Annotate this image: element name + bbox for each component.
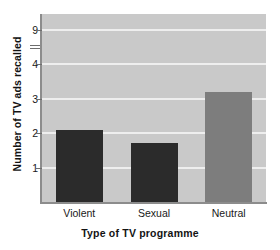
x-axis-tick-label: Neutral <box>212 207 246 219</box>
x-axis-tick-labels: ViolentSexualNeutral <box>42 207 266 223</box>
y-axis-tick-mark <box>36 99 42 100</box>
y-axis-tick-labels: 12349 <box>22 0 38 250</box>
gridline <box>42 29 266 31</box>
y-axis-tick-mark <box>36 133 42 134</box>
x-axis-tick-label: Violent <box>63 207 95 219</box>
y-axis-tick-mark <box>36 30 42 31</box>
bar <box>56 130 103 202</box>
x-axis-tick-label: Sexual <box>138 207 170 219</box>
y-axis-tick-mark <box>36 168 42 169</box>
y-axis-tick-mark <box>36 64 42 65</box>
bar <box>131 143 178 202</box>
gridline <box>42 63 266 65</box>
bar-chart-figure: Number of TV ads recalled 12349 ViolentS… <box>0 0 280 250</box>
x-axis-title: Type of TV programme <box>0 227 280 239</box>
plot-area <box>42 14 266 202</box>
x-axis-line <box>40 202 267 204</box>
bar <box>205 92 252 202</box>
